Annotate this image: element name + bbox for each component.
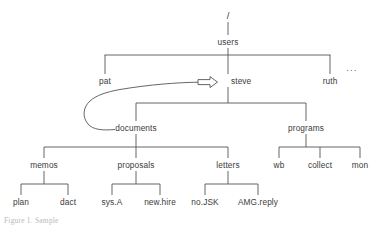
node-label-steve: steve xyxy=(231,77,251,85)
node-label-ruth: ruth xyxy=(323,77,338,85)
node-label-plan: plan xyxy=(13,198,29,206)
node-label-pat: pat xyxy=(99,77,111,85)
node-label-new-hire: new.hire xyxy=(144,198,176,206)
node-label-collect: collect xyxy=(308,161,332,169)
node-label-root: / xyxy=(227,11,230,21)
node-label-sys-a: sys.A xyxy=(102,198,123,206)
node-label-amg-reply: AMG.reply xyxy=(238,198,278,206)
node-label-dact: dact xyxy=(60,198,76,206)
filesystem-tree-diagram: / users pat steve ruth documents program… xyxy=(0,0,381,226)
tree-edges-svg xyxy=(0,0,381,226)
node-label-proposals: proposals xyxy=(118,161,155,169)
more-users-ellipsis: ... xyxy=(346,63,358,73)
node-label-memos: memos xyxy=(30,161,58,169)
node-label-mon: mon xyxy=(352,161,368,169)
figure-caption: Figure 1. Sample xyxy=(4,216,59,225)
open-arrowhead-icon xyxy=(198,77,218,88)
node-label-users: users xyxy=(218,38,239,46)
node-label-programs: programs xyxy=(288,124,324,132)
node-label-wb: wb xyxy=(274,161,285,169)
node-label-letters: letters xyxy=(216,161,239,169)
node-label-documents: documents xyxy=(115,124,157,132)
node-label-no-jsk: no.JSK xyxy=(191,198,218,206)
